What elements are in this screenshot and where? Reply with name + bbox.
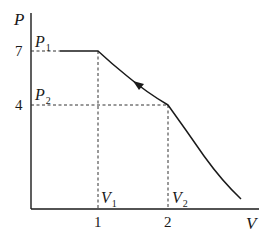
p1-label: P1 [35,34,51,50]
p1-sub: 1 [46,42,51,53]
y-tick-4: 4 [15,98,23,113]
y-tick-7: 7 [15,44,23,59]
y-axis-label: P [14,11,24,28]
process-curve [60,51,241,199]
p2-sub: 2 [46,95,51,106]
x-axis-label: V [246,215,256,232]
p2-label: P2 [35,87,51,103]
p1-base: P [35,33,45,50]
v2-sub: 2 [183,198,188,209]
x-tick-1: 1 [94,215,102,230]
v2-label: V2 [172,190,188,206]
v1-base: V [101,189,111,206]
x-tick-2: 2 [164,215,172,230]
v1-sub: 1 [112,198,117,209]
p2-base: P [35,86,45,103]
v2-base: V [172,189,182,206]
v1-label: V1 [101,190,117,206]
